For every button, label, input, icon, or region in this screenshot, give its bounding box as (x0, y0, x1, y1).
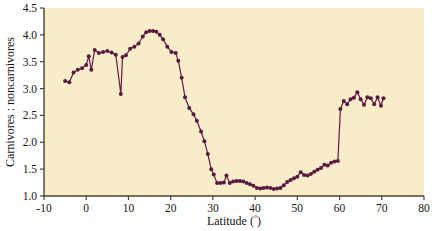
y-tick-label-1: 1.5 (23, 163, 38, 175)
data-point (212, 173, 216, 177)
data-point (379, 104, 383, 108)
data-point (285, 180, 289, 184)
data-point (222, 181, 226, 185)
data-point (338, 107, 342, 111)
data-point (262, 186, 266, 190)
data-point (137, 41, 141, 45)
data-point (132, 45, 136, 49)
x-tick-label-2: 10 (123, 202, 135, 214)
chart-figure: -1001020304050607080 1.01.52.02.53.03.54… (0, 0, 437, 231)
data-point (161, 37, 165, 41)
data-point (278, 186, 282, 190)
x-tick-label-3: 20 (165, 202, 177, 214)
data-point (352, 96, 356, 100)
data-point (326, 163, 330, 167)
x-tick-label-5: 40 (249, 202, 261, 214)
data-point (268, 186, 272, 190)
data-point (202, 139, 206, 143)
x-tick-label-8: 70 (376, 202, 388, 214)
data-point (336, 159, 340, 163)
data-point (224, 174, 228, 178)
data-point (114, 53, 118, 57)
data-point (295, 175, 299, 179)
y-tick-label-2: 2.0 (23, 136, 38, 148)
data-point (319, 166, 323, 170)
data-point (199, 130, 203, 134)
data-point (101, 50, 105, 54)
data-point (165, 45, 169, 49)
x-axis-title: Latitude (°) (207, 214, 261, 228)
data-point (265, 185, 269, 189)
data-point (309, 172, 313, 176)
data-point (119, 92, 123, 96)
x-tick-label-9: 80 (418, 202, 430, 214)
data-point (345, 102, 349, 106)
data-point (195, 119, 199, 123)
y-tick-label-5: 3.5 (23, 56, 38, 68)
data-point (209, 167, 213, 171)
x-tick-label-0: -10 (36, 202, 52, 214)
data-point (110, 51, 114, 55)
data-point (275, 186, 279, 190)
y-tick-label-4: 3.0 (23, 83, 38, 95)
data-point (72, 70, 76, 74)
data-point (154, 30, 158, 34)
data-point (206, 152, 210, 156)
data-point (299, 170, 303, 174)
x-tick-label-4: 30 (207, 202, 219, 214)
data-point (76, 68, 80, 72)
data-point (381, 96, 385, 100)
plot-area-background (44, 8, 424, 196)
data-point (191, 112, 195, 116)
y-tick-label-7: 4.5 (23, 2, 38, 14)
y-axis-title: Carnivores : noncarnivores (3, 37, 17, 167)
data-point (365, 95, 369, 99)
data-point (141, 34, 145, 38)
data-point (342, 99, 346, 103)
data-point (183, 95, 187, 99)
data-point (63, 79, 67, 83)
data-point (124, 53, 128, 57)
data-point (369, 96, 373, 100)
data-point (84, 63, 88, 67)
data-point (376, 95, 380, 99)
data-point (174, 51, 178, 55)
data-point (272, 187, 276, 191)
data-point (282, 183, 286, 187)
data-point (80, 66, 84, 70)
data-point (329, 161, 333, 165)
data-point (180, 76, 184, 80)
data-point (251, 184, 255, 188)
data-point (332, 160, 336, 164)
data-point (372, 102, 376, 106)
data-point (362, 103, 366, 107)
chart-svg: -1001020304050607080 1.01.52.02.53.03.54… (0, 0, 437, 231)
data-point (359, 97, 363, 101)
data-point (89, 68, 93, 72)
data-point (170, 50, 174, 54)
data-point (231, 180, 235, 184)
data-point (67, 80, 71, 84)
data-point (238, 179, 242, 183)
data-point (258, 186, 262, 190)
data-point (312, 170, 316, 174)
data-point (144, 30, 148, 34)
data-point (105, 49, 109, 53)
x-tick-label-6: 50 (292, 202, 304, 214)
data-point (322, 163, 326, 167)
data-point (355, 90, 359, 94)
data-point (187, 106, 191, 110)
data-point (87, 54, 91, 58)
data-point (158, 33, 162, 37)
y-tick-label-6: 4.0 (23, 29, 38, 41)
x-tick-label-1: 0 (83, 202, 89, 214)
x-tick-label-7: 60 (334, 202, 346, 214)
data-point (218, 181, 222, 185)
data-point (97, 51, 101, 55)
y-tick-label-3: 2.5 (23, 109, 38, 121)
data-point (128, 47, 132, 51)
data-point (176, 59, 180, 63)
data-point (255, 186, 259, 190)
data-point (302, 173, 306, 177)
data-point (151, 29, 155, 33)
